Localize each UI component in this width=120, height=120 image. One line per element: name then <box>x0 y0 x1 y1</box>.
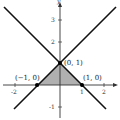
point-neg1-0 <box>35 83 39 87</box>
point-0-1 <box>58 61 62 65</box>
x-tick-label: 2 <box>102 88 106 95</box>
y-tick-label: 2 <box>51 38 55 45</box>
point-1-0 <box>80 83 84 87</box>
y-tick-label: 3 <box>51 16 55 23</box>
y-tick-label: -1 <box>49 103 55 110</box>
point-label-1-0: (1, 0) <box>83 74 102 82</box>
x-tick-label: 1 <box>80 88 84 95</box>
x-tick-label: -2 <box>11 88 17 95</box>
line-y-equals-x-plus-1 <box>14 7 116 109</box>
diagram-canvas: -2 1 2 3 2 -1 y (0, 1) (−1, 0) (1, 0) <box>0 0 120 120</box>
x-axis-arrow-icon <box>113 83 118 87</box>
point-label-neg1-0: (−1, 0) <box>15 74 40 82</box>
line-y-equals-neg-x-plus-1 <box>4 7 106 109</box>
point-label-0-1: (0, 1) <box>64 59 83 67</box>
